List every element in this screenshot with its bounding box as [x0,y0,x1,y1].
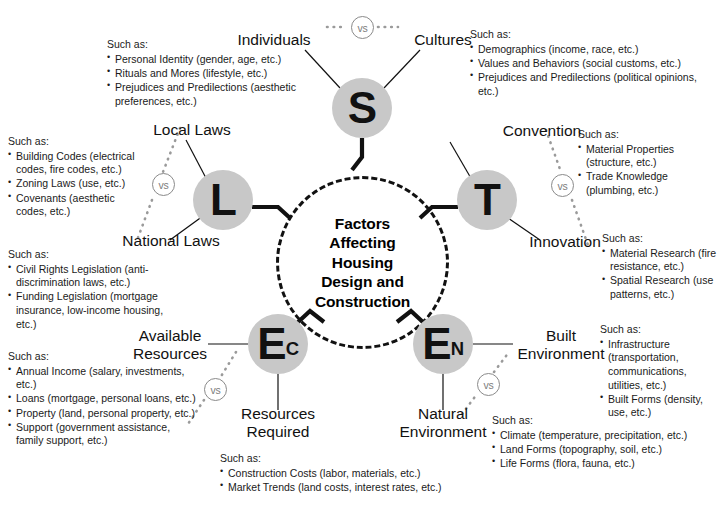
list-item: Rituals and Mores (lifestyle, etc.) [107,67,335,81]
list-item: Demographics (income, race, etc.) [470,43,702,57]
details-individuals-list: Personal Identity (gender, age, etc.) Ri… [107,53,335,109]
list-item: Construction Costs (labor, materials, et… [220,467,470,481]
node-technological-letter: T [474,178,500,222]
details-convention: Such as: Material Properties (structure,… [578,128,713,198]
such-as-header: Such as: [8,350,196,364]
details-resources-required: Such as: Construction Costs (labor, mate… [220,452,470,495]
details-cultures-list: Demographics (income, race, etc.) Values… [470,43,702,99]
details-resources-required-list: Construction Costs (labor, materials, et… [220,467,470,495]
list-item: Spatial Research (use patterns, etc.) [602,274,720,301]
vs-badge-technological-label: vs [558,180,568,192]
vs-badge-social-label: vs [358,22,368,34]
details-local-laws-list: Building Codes (electrical codes, fire c… [8,150,143,219]
node-social[interactable]: S [332,78,392,138]
details-innovation: Such as: Material Research (fire resista… [602,232,720,302]
vs-line-econ-top [220,352,236,378]
list-item: Trade Knowledge (plumbing, etc.) [578,170,713,197]
list-item: Property (land, personal property, etc.) [8,407,196,421]
vs-badge-technological: vs [551,174,574,197]
details-built-environment: Such as: Infrastructure (transportation,… [600,323,720,420]
list-item: Climate (temperature, precipitation, etc… [492,429,704,443]
list-item: Market Trends (land costs, interest rate… [220,481,470,495]
list-item: Building Codes (electrical codes, fire c… [8,150,143,177]
details-individuals: Such as: Personal Identity (gender, age,… [107,38,335,109]
center-label: Factors Affecting Housing Design and Con… [315,214,410,311]
such-as-header: Such as: [220,452,470,466]
vs-badge-environmental: vs [477,373,500,396]
details-built-environment-list: Infrastructure (transportation, communic… [600,338,720,420]
list-item: Loans (mortgage, personal loans, etc.) [8,392,196,406]
details-cultures: Such as: Demographics (income, race, etc… [470,28,702,99]
list-item: Support (government assistance, family s… [8,421,196,448]
list-item: Values and Behaviors (social customs, et… [470,57,702,71]
such-as-header: Such as: [8,248,186,262]
vs-badge-legal-label: vs [159,179,169,191]
such-as-header: Such as: [107,38,335,52]
list-item: Civil Rights Legislation (anti-discrimin… [8,263,186,290]
endpoint-built-environment: Built Environment [508,327,614,363]
vs-badge-economic-label: vs [211,384,221,396]
node-environmental-subscript: N [451,340,464,358]
vs-badge-economic: vs [204,378,227,401]
list-item: Zoning Laws (use, etc.) [8,177,143,191]
node-legal-letter: L [210,178,236,222]
details-available-resources-list: Annual Income (salary, investments, etc.… [8,365,196,448]
endpoint-local-laws: Local Laws [140,121,244,139]
details-national-laws: Such as: Civil Rights Legislation (anti-… [8,248,186,332]
vs-badge-environmental-label: vs [484,379,494,391]
list-item: Prejudices and Predilections (aesthetic … [107,81,335,108]
endpoint-innovation: Innovation [516,233,614,251]
such-as-header: Such as: [602,232,720,246]
node-legal[interactable]: L [193,170,253,230]
vs-badge-legal: vs [152,173,175,196]
list-item: Covenants (aesthetic codes, etc.) [8,192,143,219]
such-as-header: Such as: [8,135,143,149]
list-item: Personal Identity (gender, age, etc.) [107,53,335,67]
endpoint-natural-environment: Natural Environment [390,405,496,441]
list-item: Annual Income (salary, investments, etc.… [8,365,196,392]
such-as-header: Such as: [600,323,720,337]
details-local-laws: Such as: Building Codes (electrical code… [8,135,143,219]
list-item: Material Research (fire resistance, etc.… [602,247,720,274]
node-social-letter: S [348,86,376,130]
list-item: Land Forms (topography, soil, etc.) [492,443,704,457]
details-innovation-list: Material Research (fire resistance, etc.… [602,247,720,302]
node-environmental[interactable]: EN [413,314,473,374]
such-as-header: Such as: [470,28,702,42]
details-national-laws-list: Civil Rights Legislation (anti-discrimin… [8,263,186,332]
elbow-l-center [252,207,290,218]
spoke-t-convention [450,142,472,180]
such-as-header: Such as: [492,414,704,428]
list-item: Infrastructure (transportation, communic… [600,338,720,393]
details-natural-environment-list: Climate (temperature, precipitation, etc… [492,429,704,471]
vs-line-env-top [494,352,509,372]
list-item: Material Properties (structure, etc.) [578,143,713,170]
node-economic[interactable]: EC [248,314,308,374]
elbow-s-center [352,138,362,170]
list-item: Prejudices and Predilections (political … [470,71,702,98]
spoke-l-local-laws [186,140,207,180]
details-available-resources: Such as: Annual Income (salary, investme… [8,350,196,448]
node-economic-letter: E [257,322,285,366]
such-as-header: Such as: [578,128,713,142]
node-environmental-letter: E [422,322,450,366]
details-convention-list: Material Properties (structure, etc.) Tr… [578,143,713,198]
list-item: Life Forms (flora, fauna, etc.) [492,457,704,471]
diagram-canvas: Factors Affecting Housing Design and Con… [0,0,725,505]
node-technological[interactable]: T [457,170,517,230]
vs-badge-social: vs [351,16,374,39]
endpoint-resources-required: Resources Required [232,405,324,441]
node-economic-subscript: C [286,340,299,358]
spoke-s-cultures [384,50,420,88]
list-item: Funding Legislation (mortgage insurance,… [8,290,186,331]
details-natural-environment: Such as: Climate (temperature, precipita… [492,414,704,471]
